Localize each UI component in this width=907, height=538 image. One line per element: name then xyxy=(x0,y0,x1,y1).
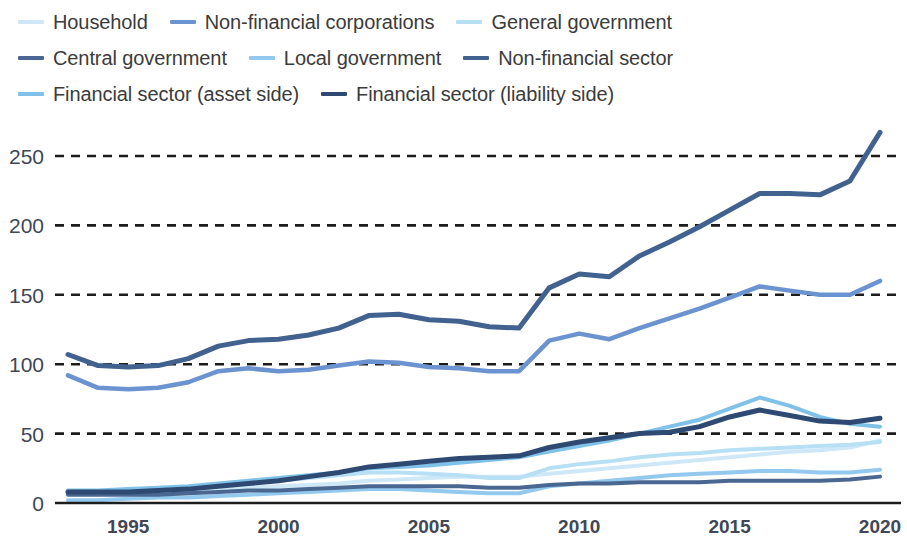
chart-legend: Household Non-financial corporations Gen… xyxy=(0,0,907,112)
x-tick-label-1995: 1995 xyxy=(107,516,150,537)
x-tick-label-2020: 2020 xyxy=(859,516,901,537)
legend-item-local-government[interactable]: Local government xyxy=(249,48,441,68)
legend-swatch-non-financial-sector xyxy=(463,56,489,60)
legend-row: Household Non-financial corporations Gen… xyxy=(18,4,907,40)
y-tick-label-250: 250 xyxy=(9,145,44,168)
legend-swatch-central-government xyxy=(18,56,44,60)
legend-swatch-financial-sector-asset-side xyxy=(18,92,44,96)
series-line-non-financial-sector xyxy=(68,132,880,367)
legend-item-financial-sector-asset-side[interactable]: Financial sector (asset side) xyxy=(18,84,299,104)
legend-item-non-financial-sector[interactable]: Non-financial sector xyxy=(463,48,673,68)
legend-item-household[interactable]: Household xyxy=(18,12,148,32)
legend-swatch-financial-sector-liability-side xyxy=(321,92,347,96)
legend-swatch-household xyxy=(18,20,44,24)
legend-item-financial-sector-liability-side[interactable]: Financial sector (liability side) xyxy=(321,84,614,104)
chart-root: Household Non-financial corporations Gen… xyxy=(0,0,907,538)
x-tick-label-2000: 2000 xyxy=(257,516,299,537)
legend-row: Central government Local government Non-… xyxy=(18,40,907,76)
legend-label-financial-sector-asset-side: Financial sector (asset side) xyxy=(53,84,299,104)
legend-swatch-non-financial-corporations xyxy=(170,20,196,24)
x-tick-label-2015: 2015 xyxy=(708,516,751,537)
y-axis-tick-labels: 501001502002500 xyxy=(9,145,44,515)
legend-label-general-government: General government xyxy=(491,12,672,32)
legend-label-financial-sector-liability-side: Financial sector (liability side) xyxy=(356,84,614,104)
legend-label-local-government: Local government xyxy=(284,48,441,68)
y-tick-label-200: 200 xyxy=(9,214,44,237)
chart-plot-area: 501001502002500 199520002005201020152020 xyxy=(0,112,907,538)
legend-item-general-government[interactable]: General government xyxy=(456,12,672,32)
x-tick-label-2005: 2005 xyxy=(408,516,451,537)
legend-row: Financial sector (asset side) Financial … xyxy=(18,76,907,112)
legend-item-central-government[interactable]: Central government xyxy=(18,48,227,68)
line-chart: 501001502002500 199520002005201020152020 xyxy=(0,112,907,538)
legend-label-non-financial-sector: Non-financial sector xyxy=(498,48,673,68)
y-tick-label-100: 100 xyxy=(9,353,44,376)
series-line-non-financial-corporations xyxy=(68,281,880,389)
x-tick-label-2010: 2010 xyxy=(558,516,600,537)
y-tick-label-50: 50 xyxy=(21,423,44,446)
legend-label-non-financial-corporations: Non-financial corporations xyxy=(205,12,435,32)
legend-item-non-financial-corporations[interactable]: Non-financial corporations xyxy=(170,12,435,32)
legend-swatch-local-government xyxy=(249,56,275,60)
legend-swatch-general-government xyxy=(456,20,482,24)
gridlines-group xyxy=(55,156,901,434)
y-tick-label-150: 150 xyxy=(9,284,44,307)
legend-label-central-government: Central government xyxy=(53,48,227,68)
y-tick-label-0: 0 xyxy=(32,492,44,515)
legend-label-household: Household xyxy=(53,12,148,32)
series-lines-group xyxy=(68,132,880,500)
x-axis-tick-labels: 199520002005201020152020 xyxy=(107,516,901,537)
